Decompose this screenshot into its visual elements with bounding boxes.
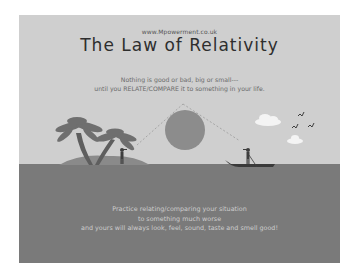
island xyxy=(59,155,150,165)
sun xyxy=(165,110,205,150)
subtitle: Nothing is good or bad, big or small--- … xyxy=(19,75,340,93)
birds xyxy=(292,112,314,128)
subtitle-line: until you RELATE/COMPARE it to something… xyxy=(19,84,340,93)
palm-fronds-right xyxy=(95,129,138,153)
footer-line: Practice relating/comparing your situati… xyxy=(19,205,340,215)
clouds xyxy=(255,114,303,144)
footer-line: to something much worse xyxy=(19,215,340,225)
poster-card: www.Mpowerment.co.uk The Law of Relativi… xyxy=(19,15,340,263)
footer-message: Practice relating/comparing your situati… xyxy=(19,205,340,234)
poster-title: The Law of Relativity xyxy=(19,35,340,55)
website-url: www.Mpowerment.co.uk xyxy=(19,28,340,35)
footer-line: and yours will always look, feel, sound,… xyxy=(19,224,340,234)
subtitle-line: Nothing is good or bad, big or small--- xyxy=(19,75,340,84)
